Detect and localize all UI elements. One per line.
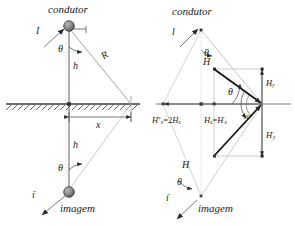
left-x-label: x [96, 120, 100, 130]
ground-hatching [6, 105, 137, 110]
right-image-current-label: i' [166, 193, 170, 203]
left-height-label: h [73, 61, 78, 71]
conductor-dot [64, 21, 75, 32]
equation-Hx-equals-Hx-prime: Hx=H'x [204, 116, 227, 126]
Hy-label: Hy [266, 79, 274, 89]
eq-left-rhs-sub: x [178, 119, 180, 125]
ray-left-upper [163, 30, 201, 104]
Hy-prime-label: H'y [266, 131, 275, 141]
node-upper-H [213, 68, 216, 71]
left-image-height-label: h [73, 140, 78, 150]
axis-node-hx [213, 102, 216, 105]
left-current-label: I [36, 26, 39, 36]
image-conductor-dot [64, 187, 75, 198]
axis-node-center [200, 102, 203, 105]
right-imagem-label: imagem [198, 203, 233, 214]
ground-node [67, 102, 71, 106]
left-theta-upper-label: θ [58, 44, 63, 54]
equation-Hx-star: H*x=2Hx [152, 116, 181, 126]
current-arrow-l-right [180, 29, 198, 47]
eq-right-rhs-sub: x [224, 119, 226, 125]
right-conductor-label: condutor [172, 6, 212, 17]
image-current-arrow-right [177, 200, 197, 219]
H-vector-lower [214, 105, 261, 156]
right-theta-upper-label: θ [228, 87, 233, 97]
right-image-current-prime: ' [169, 192, 170, 199]
right-H-lower-label: H [182, 160, 189, 170]
left-theta-lower-label: θ [58, 163, 63, 173]
node-lower-H [213, 155, 216, 158]
Hy-prime-sub: y [273, 134, 275, 140]
distance-R-line [69, 28, 131, 104]
node-lower-corner [261, 155, 264, 158]
right-theta-lower-label: θ [177, 177, 182, 187]
angle-arc-theta-lower [69, 164, 82, 170]
axis-node-left [162, 103, 165, 106]
image-node-right [200, 195, 203, 198]
left-diagram [6, 21, 140, 215]
left-image-current-prime: ' [35, 189, 36, 196]
right-current-label: l [172, 27, 175, 37]
angle-arc-theta-upper [69, 47, 82, 52]
node-upper-corner [261, 68, 264, 71]
left-image-current-label: i' [32, 190, 36, 200]
right-angle-90-label: 90° [243, 114, 253, 121]
angle-arc-90deg-inner [246, 95, 250, 115]
left-conductor-label: condutor [48, 4, 88, 15]
conductor-node-right [200, 29, 203, 32]
Hy-sub: y [272, 82, 274, 88]
left-imagem-label: imagem [60, 203, 95, 214]
right-H-upper-label: H [203, 57, 210, 67]
